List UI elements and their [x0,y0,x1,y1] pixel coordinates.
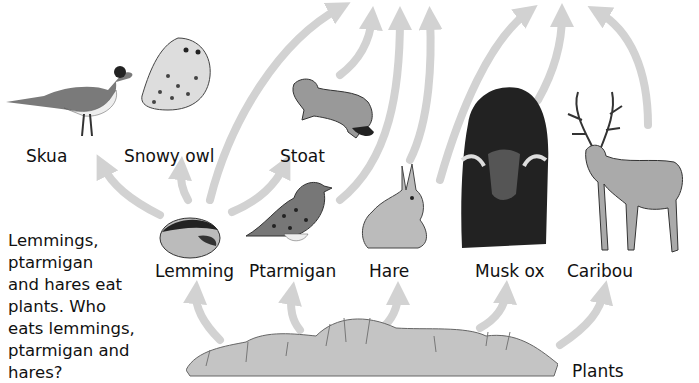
question-line: Lemmings, [8,230,178,252]
question-line: plants. Who [8,296,178,318]
question-line: eats lemmings, [8,318,178,340]
label-ptarmigan: Ptarmigan [249,261,336,281]
label-skua: Skua [26,146,67,166]
label-musk-ox: Musk ox [475,261,545,281]
arrow-lemming-skua [102,165,160,215]
skua-illustration [4,60,134,140]
plants-illustration [186,306,558,378]
question-line: hares? [8,362,178,383]
food-web-diagram: Skua Snowy owl Stoat Lemming Ptarmigan H… [0,0,699,383]
question-line: and hares eat [8,274,178,296]
stoat-illustration [288,72,378,142]
hare-illustration [358,160,436,252]
musk-ox-illustration [458,84,550,252]
label-stoat: Stoat [280,146,325,166]
question-line: ptarmigan and [8,340,178,362]
arrow-lemming-owl [181,168,188,200]
ptarmigan-illustration [244,176,332,246]
arrow-plants-caribou [560,292,604,345]
question-text: Lemmings, ptarmigan and hares eat plants… [8,230,178,383]
caribou-illustration [564,90,688,256]
question-line: ptarmigan [8,252,178,274]
label-snowy-owl: Snowy owl [124,146,214,166]
label-hare: Hare [369,261,409,281]
snowy-owl-illustration [138,36,218,114]
label-plants: Plants [572,361,624,381]
label-caribou: Caribou [567,261,633,281]
